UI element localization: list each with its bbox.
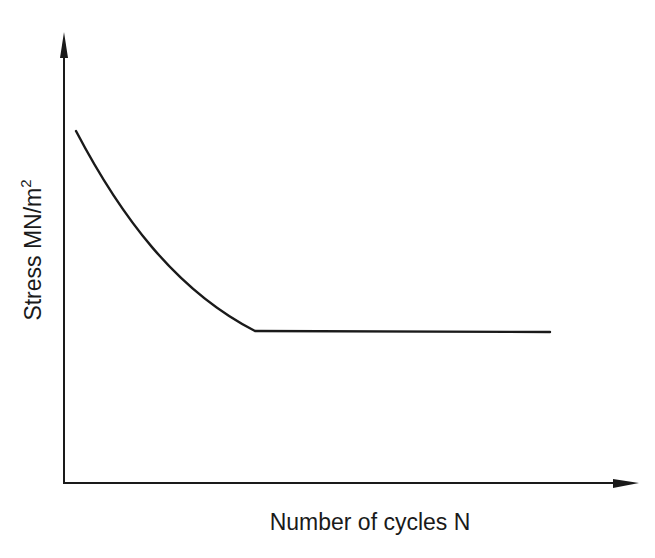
sn-curve-line — [76, 131, 550, 332]
x-axis-arrow-icon — [613, 479, 639, 488]
chart-canvas — [0, 0, 655, 558]
x-axis-label: Number of cycles N — [270, 509, 471, 536]
y-axis-arrow-icon — [60, 32, 68, 58]
y-axis-label: Stress MN/m2 — [19, 179, 48, 320]
